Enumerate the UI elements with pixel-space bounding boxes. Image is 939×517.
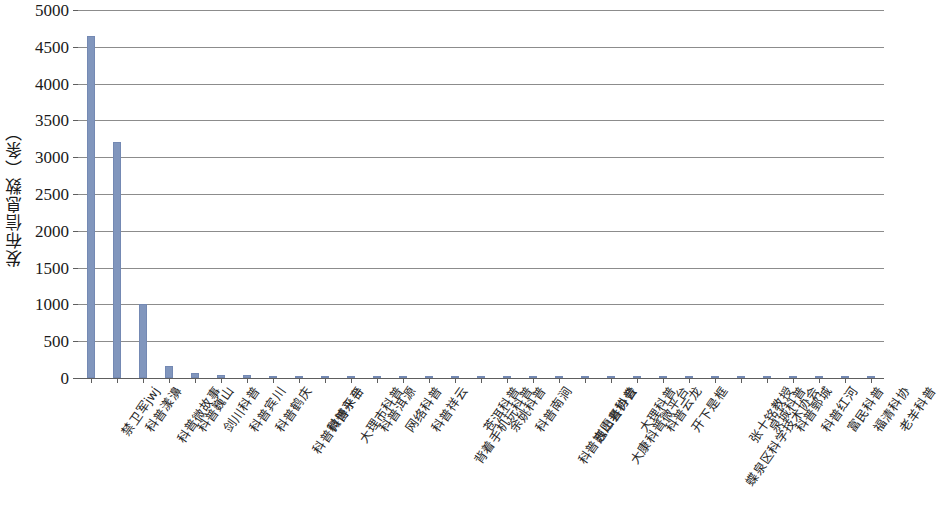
x-tick-mark xyxy=(611,378,612,383)
y-tick-mark xyxy=(73,378,78,379)
y-tick-label: 2500 xyxy=(28,186,69,203)
bar xyxy=(113,142,121,378)
y-tick-label: 4000 xyxy=(28,76,69,93)
x-tick-label: 张十铭教授 xyxy=(748,385,796,445)
x-tick-mark xyxy=(845,378,846,383)
y-tick-label: 3000 xyxy=(28,149,69,166)
x-tick-mark xyxy=(663,378,664,383)
x-tick-mark xyxy=(481,378,482,383)
x-tick-mark xyxy=(585,378,586,383)
x-tick-label: 科普云龙 xyxy=(664,385,704,435)
y-axis-title: 发布信息数（条） xyxy=(0,0,26,390)
x-tick-label: 泉城科普 xyxy=(768,385,808,435)
x-tick-mark xyxy=(143,378,144,383)
x-tick-label: 科普微故事 xyxy=(176,385,224,445)
x-tick-label: 科普祥云 xyxy=(430,385,470,435)
x-tick-label: 科普鹤庆 xyxy=(274,385,314,435)
x-tick-mark xyxy=(767,378,768,383)
y-tick-mark xyxy=(73,231,78,232)
bar xyxy=(165,366,173,379)
x-tick-label: 大理市科普 xyxy=(358,385,406,445)
x-tick-label: 科普漾濞 xyxy=(144,385,184,435)
plot-area xyxy=(78,10,884,378)
x-tick-label: 福清科协 xyxy=(872,385,912,435)
y-tick-label: 0 xyxy=(28,370,69,387)
y-tick-mark xyxy=(73,84,78,85)
x-tick-mark xyxy=(455,378,456,383)
x-tick-label: 科普南涧 xyxy=(534,385,574,435)
x-tick-mark xyxy=(273,378,274,383)
x-tick-mark xyxy=(299,378,300,383)
x-tick-label: 蝶泉区科学技术协会 xyxy=(744,385,821,488)
y-tick-label: 500 xyxy=(28,333,69,350)
y-axis-title-text: 发布信息数（条） xyxy=(1,123,26,267)
x-tick-label: 科普红河 xyxy=(820,385,860,435)
y-tick-mark xyxy=(73,341,78,342)
x-tick-label: 科普宾川 xyxy=(248,385,288,435)
x-tick-label: 科普鄄城 xyxy=(794,385,834,435)
x-tick-label: 背着手机玩科普 xyxy=(473,385,535,467)
x-tick-label: 大康科普微平台 xyxy=(629,385,691,467)
x-tick-mark xyxy=(247,378,248,383)
x-tick-label: 老羊科普 xyxy=(898,385,938,435)
x-tick-label: 余姚科普 xyxy=(508,385,548,435)
y-tick-mark xyxy=(73,157,78,158)
y-tick-mark xyxy=(73,10,78,11)
x-tick-mark xyxy=(871,378,872,383)
y-tick-label: 3500 xyxy=(28,112,69,129)
x-tick-mark xyxy=(507,378,508,383)
x-tick-label: 科普微博平台 xyxy=(311,385,366,456)
x-tick-mark xyxy=(221,378,222,383)
bars-group xyxy=(78,10,884,378)
x-tick-mark xyxy=(819,378,820,383)
x-tick-mark xyxy=(195,378,196,383)
x-tick-label: 苍洱科普 xyxy=(482,385,522,435)
y-tick-mark xyxy=(73,194,78,195)
x-tick-mark xyxy=(533,378,534,383)
x-tick-mark xyxy=(377,378,378,383)
y-tick-label: 4500 xyxy=(28,39,69,56)
x-tick-label: 富民科普 xyxy=(846,385,886,435)
x-tick-mark xyxy=(403,378,404,383)
x-tick-label: 大理科普 xyxy=(638,385,678,435)
y-tick-mark xyxy=(73,47,78,48)
x-tick-mark xyxy=(715,378,716,383)
x-tick-label: 禁卫军jwj xyxy=(120,385,162,438)
y-tick-label: 1500 xyxy=(28,260,69,277)
x-tick-label: 科普永平 xyxy=(326,385,366,435)
x-tick-label: 网络科普 xyxy=(404,385,444,435)
y-tick-mark xyxy=(73,304,78,305)
bar xyxy=(87,36,95,378)
x-tick-mark xyxy=(637,378,638,383)
x-tick-mark xyxy=(351,378,352,383)
x-tick-label: 开下是框 xyxy=(690,385,730,435)
y-tick-label: 5000 xyxy=(28,2,69,19)
x-tick-label: 巍山县科普 xyxy=(592,385,640,445)
x-tick-mark xyxy=(559,378,560,383)
y-tick-mark xyxy=(73,268,78,269)
y-tick-label: 2000 xyxy=(28,223,69,240)
x-tick-label: 剑川科普 xyxy=(222,385,262,435)
x-tick-label: 科普巍山 xyxy=(196,385,236,435)
x-tick-mark xyxy=(793,378,794,383)
y-tick-label: 1000 xyxy=(28,296,69,313)
bar xyxy=(139,304,147,378)
x-tick-label: 科普志愿者协会 xyxy=(577,385,639,467)
x-tick-label: 科普洱源 xyxy=(378,385,418,435)
y-tick-mark xyxy=(73,120,78,121)
x-tick-mark xyxy=(429,378,430,383)
x-tick-mark xyxy=(325,378,326,383)
x-tick-mark xyxy=(169,378,170,383)
x-tick-mark xyxy=(91,378,92,383)
x-tick-mark xyxy=(741,378,742,383)
x-tick-mark xyxy=(689,378,690,383)
x-tick-mark xyxy=(117,378,118,383)
